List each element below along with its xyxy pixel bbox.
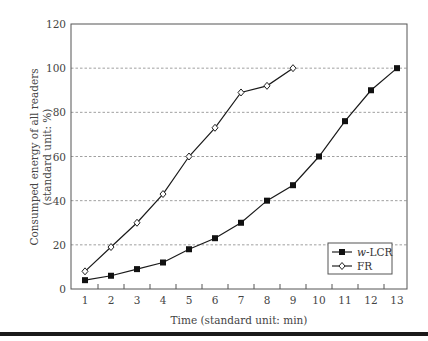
data-point-square (368, 87, 374, 93)
x-tick-label: 2 (108, 294, 115, 306)
y-tick-label: 20 (53, 239, 66, 251)
x-tick-label: 8 (264, 294, 271, 306)
x-tick-label: 9 (290, 294, 297, 306)
y-tick-label: 80 (53, 106, 66, 118)
legend: w-LCR FR (328, 243, 394, 274)
x-axis-title: Time (standard unit: min) (171, 314, 308, 326)
x-axis: 12345678910111213 (82, 284, 404, 306)
x-tick-label: 13 (390, 294, 403, 306)
data-point-diamond (290, 65, 296, 72)
data-point-square (316, 154, 322, 160)
y-axis-title-line2: (standard unit: %) (41, 109, 53, 206)
y-tick-label: 100 (46, 62, 66, 74)
data-point-square (212, 235, 218, 241)
y-tick-label: 60 (53, 151, 66, 163)
x-tick-label: 3 (134, 294, 141, 306)
x-tick-label: 12 (364, 294, 377, 306)
legend-label-fr: FR (357, 260, 373, 272)
x-tick-label: 11 (338, 294, 351, 306)
y-tick-label: 40 (53, 195, 66, 207)
data-point-square (264, 198, 270, 204)
bottom-rule-divider (0, 332, 428, 336)
data-point-square (290, 182, 296, 188)
y-tick-label: 120 (46, 18, 66, 30)
x-tick-label: 10 (312, 294, 325, 306)
data-point-square (134, 266, 140, 272)
series-line-fr (85, 68, 293, 271)
y-axis-title-line1: Consumped energy of all readers (28, 68, 40, 245)
line-chart: 020406080100120 12345678910111213 Time (… (0, 0, 428, 341)
data-point-square (186, 246, 192, 252)
legend-label-wlcr: w-LCR (357, 246, 394, 258)
data-point-diamond (264, 82, 270, 89)
x-tick-label: 5 (186, 294, 193, 306)
x-tick-label: 4 (160, 294, 167, 306)
x-tick-label: 1 (82, 294, 89, 306)
y-tick-label: 0 (59, 283, 66, 295)
data-point-square (394, 65, 400, 71)
filled-square-marker-icon (339, 249, 345, 255)
data-point-square (238, 220, 244, 226)
x-tick-label: 6 (212, 294, 219, 306)
data-point-square (160, 260, 166, 266)
data-point-square (82, 277, 88, 283)
data-point-square (108, 273, 114, 279)
x-tick-label: 7 (238, 294, 245, 306)
data-point-square (342, 118, 348, 124)
